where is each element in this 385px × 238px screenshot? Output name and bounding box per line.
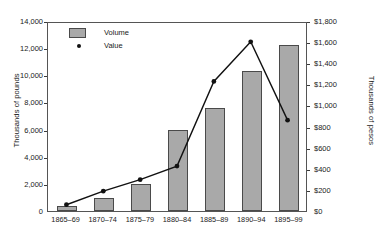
right-tick-label: $800 [314,123,356,132]
right-tick-label: $1,400 [314,59,356,68]
right-tick-label: $0 [314,207,356,216]
value-line-path [66,42,287,205]
legend-item-volume: Volume [66,26,129,39]
legend-dot-wrap [66,44,92,48]
right-tick-label: $1,200 [314,80,356,89]
value-point-1865-69 [64,202,69,207]
x-tick-label: 1875–79 [121,215,158,224]
left-tick-label: 12,000 [3,44,43,53]
left-tick-label: 0 [3,207,43,216]
right-tick-mark [307,22,310,23]
x-tick-label: 1890–94 [233,215,270,224]
value-point-1880-84 [175,164,180,169]
value-point-1885-89 [211,79,216,84]
right-tick-mark [307,191,310,192]
legend-label-volume: Volume [104,28,129,37]
left-tick-label: 2,000 [3,180,43,189]
x-tick-label: 1880–84 [158,215,195,224]
chart-legend: Volume Value [66,26,129,52]
right-tick-label: $200 [314,186,356,195]
chart-container: Thousands of pounds Thousands of pesos 0… [0,0,385,238]
legend-swatch-wrap [66,28,92,38]
right-tick-mark [307,128,310,129]
dot-marker-icon [77,44,81,48]
value-point-1895-99 [285,118,290,123]
right-tick-mark [307,43,310,44]
right-tick-label: $600 [314,144,356,153]
legend-label-value: Value [104,41,123,50]
x-tick-label: 1895–99 [270,215,307,224]
left-tick-label: 8,000 [3,98,43,107]
left-tick-label: 4,000 [3,153,43,162]
value-data-points [64,39,290,207]
right-axis-title: Thousands of pesos [367,51,376,171]
x-tick-label: 1865–69 [47,215,84,224]
legend-item-value: Value [66,39,129,52]
right-tick-label: $1,000 [314,101,356,110]
value-point-1875-79 [138,177,143,182]
right-tick-label: $1,600 [314,38,356,47]
bar-swatch-icon [69,28,86,38]
right-tick-mark [307,85,310,86]
right-tick-mark [307,64,310,65]
right-tick-label: $1,800 [314,17,356,26]
left-tick-label: 6,000 [3,126,43,135]
x-tick-label: 1870–74 [84,215,121,224]
x-tick-label: 1885–89 [196,215,233,224]
right-tick-mark [307,149,310,150]
right-tick-mark [307,170,310,171]
right-tick-mark [307,106,310,107]
value-point-1890-94 [248,39,253,44]
left-tick-label: 10,000 [3,71,43,80]
right-tick-label: $400 [314,165,356,174]
left-tick-label: 14,000 [3,17,43,26]
value-point-1870-74 [101,189,106,194]
